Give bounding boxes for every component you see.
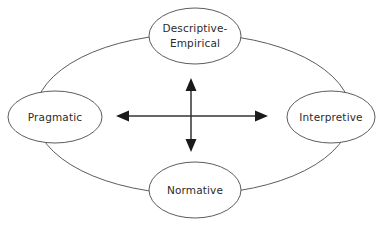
node-label-descriptive-line1: Descriptive-	[163, 22, 228, 34]
vertical-double-arrow	[186, 78, 197, 152]
arrowhead-left-icon	[116, 111, 129, 122]
node-label-descriptive-line2: Empirical	[170, 37, 220, 49]
arrowhead-up-icon	[186, 78, 197, 91]
diagram-canvas: Descriptive- Empirical Pragmatic Interpr…	[0, 0, 383, 227]
node-interpretive[interactable]: Interpretive	[287, 91, 375, 143]
diagram-svg: Descriptive- Empirical Pragmatic Interpr…	[0, 0, 383, 227]
node-label-interpretive: Interpretive	[299, 111, 362, 123]
node-label-normative: Normative	[167, 184, 223, 196]
node-ellipse-descriptive-empirical	[149, 8, 241, 64]
node-normative[interactable]: Normative	[149, 162, 241, 218]
node-label-pragmatic: Pragmatic	[28, 111, 82, 123]
horizontal-double-arrow	[116, 111, 268, 122]
node-pragmatic[interactable]: Pragmatic	[8, 91, 102, 143]
arrowhead-right-icon	[255, 111, 268, 122]
node-descriptive-empirical[interactable]: Descriptive- Empirical	[149, 8, 241, 64]
arrowhead-down-icon	[186, 139, 197, 152]
